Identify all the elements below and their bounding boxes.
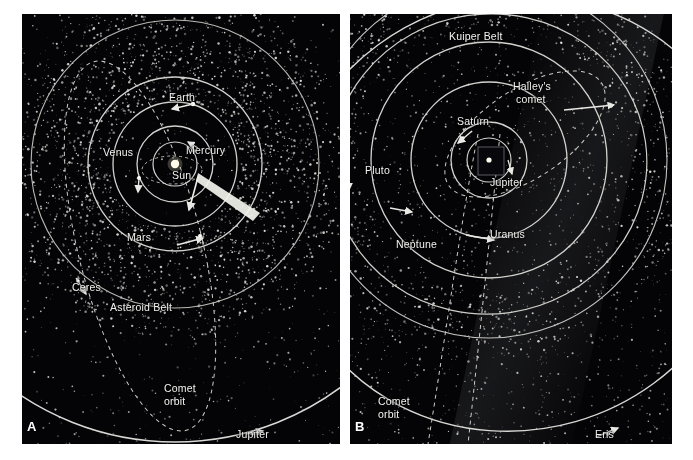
jupiter-orbit xyxy=(22,14,340,442)
mercury-body xyxy=(192,149,196,153)
panel-letter-a: A xyxy=(27,419,37,434)
panel-letter-b: B xyxy=(355,419,365,434)
inset-sun xyxy=(486,157,491,162)
panel-a: A xyxy=(22,14,340,444)
sun-glow xyxy=(168,157,183,172)
saturn-direction-arrow xyxy=(458,131,472,143)
mars-body xyxy=(198,234,202,238)
diffuse-band xyxy=(443,14,668,444)
mars-direction-arrow xyxy=(177,238,203,245)
orbit-diagram-a xyxy=(22,14,340,444)
venus-direction-arrow xyxy=(138,178,139,192)
ceres-direction-arrow xyxy=(76,278,86,294)
comet-tail xyxy=(196,173,260,221)
earth-direction-arrow xyxy=(172,104,193,109)
eris-direction-arrow xyxy=(596,428,618,437)
figure-root: A Sun Mercury Venus Earth Mars Ceres Ast… xyxy=(0,0,693,460)
orbit-diagram-b xyxy=(350,14,672,444)
panel-b: B xyxy=(350,14,672,444)
comet-orbit-ellipse xyxy=(34,47,246,444)
